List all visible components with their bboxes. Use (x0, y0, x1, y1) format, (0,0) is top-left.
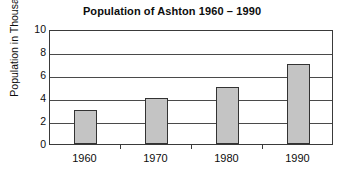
bar-1980 (216, 87, 239, 145)
x-axis-tick-label: 1970 (126, 152, 186, 164)
bar-chart-figure: Population of Ashton 1960 – 1990 Populat… (0, 0, 344, 176)
x-axis-tick (262, 145, 263, 149)
y-axis-tick-label: 2 (22, 115, 46, 128)
y-axis-tick-label: 4 (22, 92, 46, 105)
x-axis-tick-label: 1980 (197, 152, 257, 164)
x-axis-tick (120, 145, 121, 149)
chart-title: Population of Ashton 1960 – 1990 (0, 5, 344, 17)
y-axis-tick-label: 10 (22, 23, 46, 36)
plot-area (49, 30, 333, 145)
bar-1960 (74, 110, 97, 145)
y-axis-tick-label: 8 (22, 46, 46, 59)
y-axis-tick-labels: 0246810 (22, 30, 46, 145)
x-axis-tick-label: 1990 (268, 152, 328, 164)
bar-1990 (287, 64, 310, 145)
x-axis-tick-labels: 1960197019801990 (49, 152, 333, 168)
x-axis-ticks (49, 145, 333, 150)
y-axis-tick-label: 6 (22, 69, 46, 82)
bars-layer (50, 31, 332, 144)
bar-1970 (145, 98, 168, 144)
y-axis-title: Population in Thousands (7, 0, 21, 97)
x-axis-tick-label: 1960 (55, 152, 115, 164)
x-axis-tick (191, 145, 192, 149)
y-axis-tick-label: 0 (22, 138, 46, 151)
